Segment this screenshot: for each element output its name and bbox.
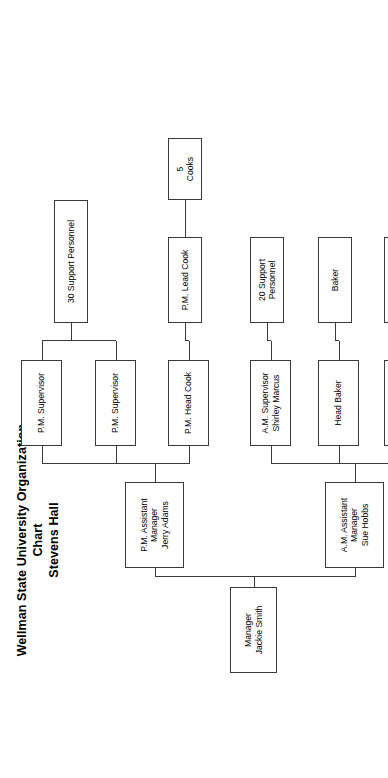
connector-pm-lead-cook-to-cooks-5-a [185, 218, 186, 237]
connector-manager-to-am-asst-mgr-a [254, 577, 255, 587]
org-node-label: P.M. Lead Cook [180, 250, 190, 311]
org-node-head-baker: Head Baker [318, 360, 359, 446]
org-node-label: P.M. Supervisor [36, 373, 46, 433]
org-node-label: Head Baker [333, 380, 343, 425]
connector-pm-sup-1-to-support-30-a [42, 341, 43, 360]
org-chart-page: Wellman State University Organization Ch… [0, 0, 388, 778]
connector-am-asst-mgr-to-head-baker-b [339, 446, 340, 464]
connector-manager-to-am-asst-mgr-b [355, 568, 356, 577]
org-node-am-supervisor: A.M. SupervisorShirley Marcus [250, 360, 291, 446]
connector-manager-to-am-asst-mgr-v [254, 576, 355, 577]
connector-manager-to-pm-asst-mgr-v [155, 576, 254, 577]
org-node-pm-sup-2: P.M. Supervisor [95, 360, 136, 446]
org-node-salad-worker: Salad Worker [384, 237, 388, 323]
chart-title: Wellman State University Organization Ch… [14, 410, 62, 670]
org-node-label: A.M. AssistantManagerSue Hobbs [339, 498, 370, 552]
connector-pm-asst-mgr-to-pm-sup-2-v [116, 463, 155, 464]
org-node-pm-sup-1: P.M. Supervisor [21, 360, 62, 446]
connector-am-asst-mgr-to-head-baker-v [339, 463, 355, 464]
chart-title-line1: Wellman State University Organization Ch… [15, 424, 45, 657]
org-node-head-salad: Head SaladWorker [384, 360, 388, 446]
org-node-label: 5Cooks [175, 157, 196, 181]
org-node-support-20: 20 SupportPersonnel [250, 237, 284, 323]
org-node-label: Baker [330, 269, 340, 291]
connector-head-baker-to-baker-b [335, 323, 336, 341]
org-node-label: ManagerJackie Smith [243, 606, 264, 655]
connector-pm-head-cook-to-pm-lead-cook-a [189, 341, 190, 360]
connector-head-baker-to-baker-a [339, 341, 340, 360]
org-node-label: P.M. Supervisor [110, 373, 120, 433]
connector-pm-sup-2-to-support-30-v [71, 340, 116, 341]
connector-pm-sup-2-to-support-30-a [116, 341, 117, 360]
org-node-pm-head-cook: P.M. Head Cook [168, 360, 209, 446]
connector-am-asst-mgr-to-am-supervisor-b [271, 446, 272, 464]
org-node-label: 30 Support Personnel [66, 220, 76, 303]
chart-title-line2: Stevens Hall [46, 410, 62, 670]
connector-pm-asst-mgr-to-pm-sup-2-b [116, 446, 117, 464]
org-node-cooks-5: 5Cooks [168, 138, 202, 200]
org-node-baker: Baker [318, 237, 352, 323]
connector-pm-sup-2-to-support-30-b [71, 323, 72, 341]
org-node-manager: ManagerJackie Smith [230, 587, 277, 673]
org-node-label: P.M. AssistantManagerJerry Adams [139, 498, 170, 551]
org-node-pm-lead-cook: P.M. Lead Cook [168, 237, 202, 323]
connector-pm-asst-mgr-to-pm-head-cook-a [155, 464, 156, 482]
connector-am-supervisor-to-support-20-a [271, 341, 272, 360]
connector-pm-head-cook-to-pm-lead-cook-b [185, 323, 186, 341]
connector-manager-to-pm-asst-mgr-b [155, 568, 156, 577]
connector-am-asst-mgr-to-am-head-cook-v [355, 463, 388, 464]
connector-pm-asst-mgr-to-pm-sup-1-b [42, 446, 43, 464]
org-node-label: A.M. SupervisorShirley Marcus [260, 372, 281, 433]
connector-pm-asst-mgr-to-pm-head-cook-v [155, 463, 189, 464]
org-chart-canvas: Wellman State University Organization Ch… [0, 0, 388, 778]
org-node-pm-asst-mgr: P.M. AssistantManagerJerry Adams [125, 482, 184, 568]
connector-am-asst-mgr-to-am-head-cook-a [355, 464, 356, 482]
connector-pm-sup-1-to-support-30-v [42, 340, 71, 341]
org-node-label: P.M. Head Cook [183, 372, 193, 434]
org-node-support-30: 30 Support Personnel [54, 200, 88, 323]
connector-pm-asst-mgr-to-pm-head-cook-b [189, 446, 190, 464]
connector-pm-lead-cook-to-cooks-5-b [185, 200, 186, 218]
org-node-am-asst-mgr: A.M. AssistantManagerSue Hobbs [325, 482, 384, 568]
connector-am-supervisor-to-support-20-b [267, 323, 268, 341]
org-node-label: 20 SupportPersonnel [257, 259, 278, 301]
